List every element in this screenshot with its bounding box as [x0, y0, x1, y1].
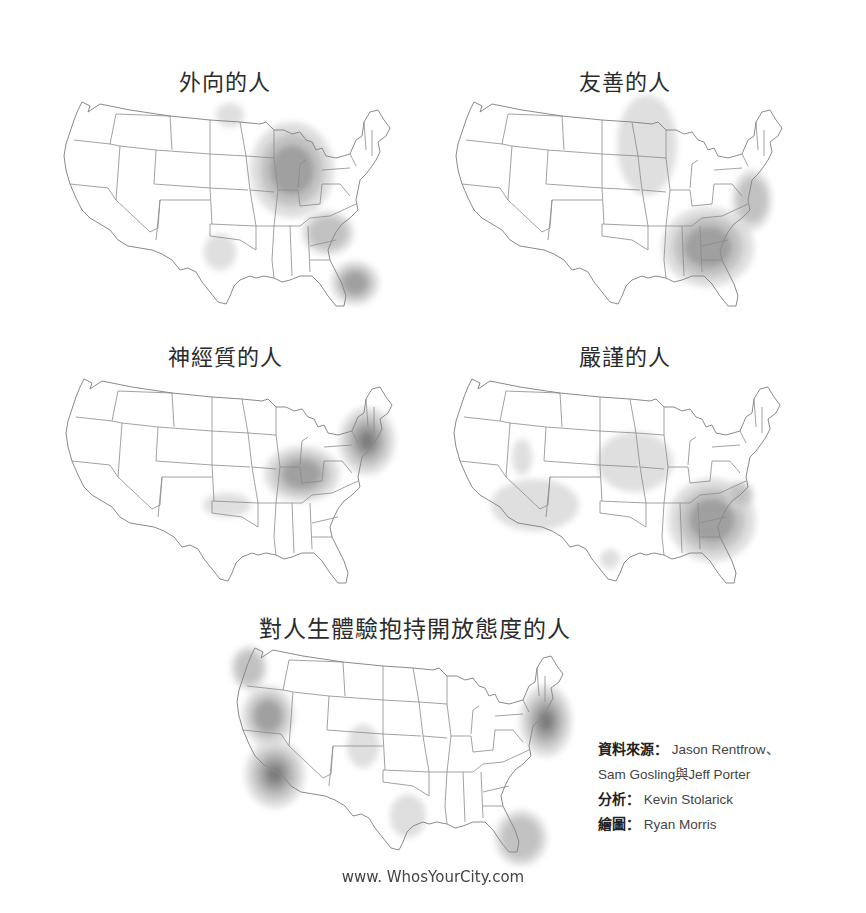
state-border [329, 746, 333, 786]
credit-analysis-label: 分析 [598, 791, 626, 807]
state-border [495, 714, 523, 716]
state-border [158, 477, 162, 517]
state-border [500, 391, 506, 421]
state-border [742, 154, 748, 166]
hotspot [270, 145, 314, 195]
state-border [110, 114, 116, 144]
state-border [152, 477, 212, 509]
state-border [483, 786, 509, 792]
map-title: 外向的人 [40, 64, 410, 96]
state-border [445, 772, 447, 824]
state-border [546, 184, 602, 188]
state-border [754, 399, 756, 427]
credit-source: 資料來源： Jason Rentfrow、 [598, 737, 779, 762]
state-border [602, 120, 604, 224]
state-border [350, 154, 356, 166]
state-border [688, 437, 696, 465]
state-border [76, 417, 122, 423]
hotspot [216, 103, 244, 127]
state-border [542, 200, 602, 232]
state-border [210, 188, 248, 190]
map-panel-agreeable: 友善的人 [440, 70, 810, 330]
state-border [712, 461, 740, 473]
state-border [150, 200, 210, 232]
credit-source-continued: Sam Gosling與Jeff Porter [598, 762, 779, 787]
state-border [112, 391, 118, 421]
credit-source-label: 資料來源 [598, 741, 654, 757]
state-border [329, 696, 383, 700]
state-border [154, 184, 210, 188]
state-border [292, 503, 294, 553]
state-border [120, 146, 156, 184]
credit-graphics-label: 繪圖 [598, 816, 626, 832]
hotspot [203, 493, 251, 517]
state-border [548, 200, 552, 240]
state-border [274, 503, 276, 555]
state-border [419, 702, 447, 704]
state-border [118, 423, 152, 509]
hotspot [737, 177, 767, 223]
state-border [447, 676, 451, 772]
state-border [471, 706, 479, 734]
map-title: 嚴謹的人 [440, 339, 810, 371]
state-border [72, 461, 118, 477]
hotspot [343, 272, 368, 295]
state-border [293, 692, 329, 730]
map-panel-open-to-experience: 對人生體驗抱持開放態度的人 [225, 612, 605, 862]
state-border [600, 501, 646, 527]
state-border [670, 190, 692, 206]
state-border [383, 734, 421, 736]
state-border [602, 224, 648, 250]
hotspot [684, 226, 732, 268]
state-border [172, 393, 174, 427]
hotspot-layer [231, 646, 572, 866]
state-border [495, 730, 523, 742]
state-border [562, 116, 564, 150]
state-border [156, 461, 212, 465]
state-border [600, 431, 636, 433]
state-border [508, 146, 542, 232]
hotspot [501, 817, 541, 860]
us-map [233, 646, 573, 856]
state-border [310, 503, 312, 549]
state-border [212, 397, 214, 501]
us-outline [66, 379, 392, 583]
hotspot [235, 651, 262, 684]
state-border [170, 116, 172, 150]
state-border [248, 433, 276, 435]
separator: ： [626, 791, 640, 807]
hotspot [282, 459, 322, 488]
credit-source-value: Jason Rentfrow、 [672, 742, 779, 757]
state-border [692, 184, 714, 206]
state-border [423, 736, 447, 738]
state-border [481, 772, 483, 818]
footer-url: www. WhosYourCity.com [0, 868, 866, 886]
state-border [714, 168, 742, 170]
credit-graphics: 繪圖： Ryan Morris [598, 812, 779, 837]
hotspot [597, 432, 673, 492]
state-border [462, 184, 508, 200]
state-border [712, 445, 740, 447]
hotspot-layer [203, 407, 395, 517]
state-border [74, 140, 120, 146]
state-border [158, 427, 212, 431]
us-map [60, 100, 400, 310]
state-border [690, 160, 698, 188]
state-border [463, 772, 465, 822]
separator: ： [654, 741, 668, 757]
map-panel-neurotic: 神經質的人 [40, 345, 410, 605]
state-border [756, 122, 758, 150]
state-border [330, 204, 356, 216]
state-border [283, 660, 289, 690]
state-border [548, 150, 602, 154]
state-border [242, 399, 258, 503]
hotspot [600, 549, 620, 569]
state-border [210, 154, 246, 156]
map-title: 友善的人 [440, 64, 810, 96]
credits-block: 資料來源： Jason Rentfrow、 Sam Gosling與Jeff P… [598, 737, 779, 837]
state-border [546, 427, 600, 431]
state-border [413, 668, 429, 772]
state-border [343, 662, 345, 696]
state-border [116, 146, 150, 232]
state-border [560, 393, 562, 427]
